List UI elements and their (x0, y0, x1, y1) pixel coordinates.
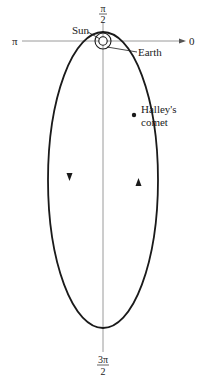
label-zero: 0 (189, 35, 195, 47)
label-pi-over-2-num: π (100, 3, 105, 14)
halley-orbit-diagram: π 0 π 2 3π 2 Sun Earth Halley's comet (0, 0, 200, 382)
label-pi: π (12, 35, 18, 47)
label-sun: Sun (72, 24, 90, 36)
label-earth: Earth (138, 46, 162, 58)
comet-position-dot (132, 113, 136, 117)
sun (99, 37, 107, 45)
label-comet-line2: comet (141, 116, 168, 128)
polar-axis-arrow-icon (179, 39, 186, 44)
earth-leader-line (107, 47, 137, 52)
orbit-arrow-down-icon (67, 173, 73, 181)
label-pi-over-2-den: 2 (101, 14, 106, 25)
label-comet-line1: Halley's (141, 103, 177, 115)
label-3pi-over-2-num: 3π (98, 354, 108, 365)
orbit-arrow-up-icon (136, 178, 142, 186)
label-3pi-over-2-den: 2 (101, 366, 106, 377)
